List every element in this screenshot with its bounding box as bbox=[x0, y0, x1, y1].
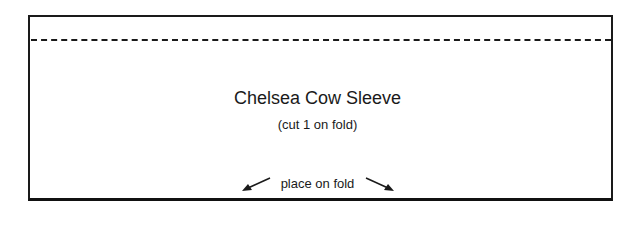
place-on-fold-label: place on fold bbox=[0, 176, 635, 191]
dashed-cut-line bbox=[31, 39, 611, 41]
cut-instruction: (cut 1 on fold) bbox=[0, 117, 635, 132]
arrow-right-down-icon bbox=[364, 176, 396, 192]
pattern-title: Chelsea Cow Sleeve bbox=[0, 88, 635, 109]
